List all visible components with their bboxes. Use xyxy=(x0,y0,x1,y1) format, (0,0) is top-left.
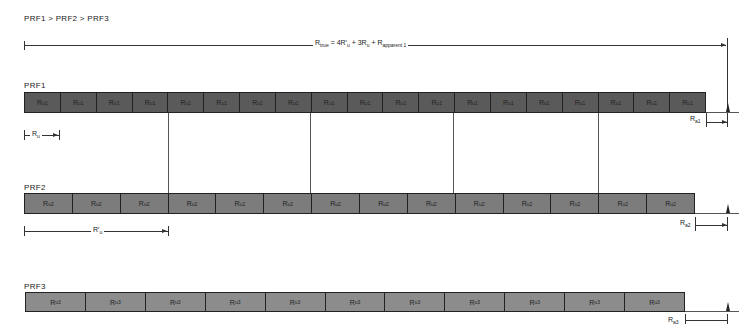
diagram-title: PRF1 > PRF2 > PRF3 xyxy=(24,14,109,23)
cell-subscript: u3 xyxy=(295,299,301,305)
prf1-range-cell: Ru1 xyxy=(240,93,276,112)
prf1-range-cell: Ru1 xyxy=(204,93,240,112)
prf3-baseline xyxy=(685,311,739,312)
cell-subscript: u1 xyxy=(114,100,120,106)
prf1-range-cell: Ru1 xyxy=(97,93,133,112)
prf1-range-cell: Ru1 xyxy=(25,93,61,112)
cell-subscript: u1 xyxy=(42,100,48,106)
cell-subscript: u1 xyxy=(401,100,407,106)
ra1-start-tick xyxy=(706,113,707,127)
cell-subscript: u2 xyxy=(383,201,389,207)
prf1-range-cell: Ru1 xyxy=(312,93,348,112)
prf2-range-cell: Ru2 xyxy=(73,194,121,213)
ra2-start-tick xyxy=(695,217,696,231)
ru-marker-label: Ru xyxy=(30,130,42,139)
cell-subscript: u2 xyxy=(48,201,54,207)
ra2-label: Ra2 xyxy=(680,219,691,228)
prf2-range-bar: Ru2Ru2Ru2Ru2Ru2Ru2Ru2Ru2Ru2Ru2Ru2Ru2Ru2R… xyxy=(24,193,695,214)
prf2-range-cell: Ru2 xyxy=(504,194,552,213)
prf2-range-cell: Ru2 xyxy=(216,194,264,213)
prf2-range-cell: Ru2 xyxy=(169,194,217,213)
alignment-connector-4 xyxy=(598,113,599,193)
cell-subscript: u1 xyxy=(78,100,84,106)
ru-marker-arrowhead xyxy=(53,133,58,137)
cell-subscript: u2 xyxy=(431,201,437,207)
prf3-echo-pulse-icon xyxy=(726,302,730,311)
cell-subscript: u1 xyxy=(616,100,622,106)
cell-subscript: u3 xyxy=(594,299,600,305)
prf3-range-cell: Ru3 xyxy=(26,293,86,311)
cell-subscript: u3 xyxy=(534,299,540,305)
prf2-range-cell: Ru2 xyxy=(121,194,169,213)
prf1-range-cell: Ru1 xyxy=(348,93,384,112)
prf2-range-cell: Ru2 xyxy=(456,194,504,213)
prf2-range-cell: Ru2 xyxy=(408,194,456,213)
prf2-range-cell: Ru2 xyxy=(25,194,73,213)
prf3-range-cell: Ru3 xyxy=(86,293,146,311)
cell-subscript: u1 xyxy=(365,100,371,106)
cell-subscript: u2 xyxy=(527,201,533,207)
cell-subscript: u2 xyxy=(96,201,102,207)
cell-subscript: u3 xyxy=(475,299,481,305)
ru-prime-arrowhead xyxy=(162,229,167,233)
cell-subscript: u2 xyxy=(240,201,246,207)
ra3-line xyxy=(685,320,727,321)
cell-subscript: u3 xyxy=(355,299,361,305)
true-range-arrowhead xyxy=(721,43,726,47)
cell-subscript: u3 xyxy=(415,299,421,305)
prf1-range-cell: Ru1 xyxy=(133,93,169,112)
cell-subscript: u1 xyxy=(436,100,442,106)
true-range-end-line xyxy=(727,38,728,110)
true-range-equation: Rtrue = 4R′u + 3Ru + Rapparent 1 xyxy=(313,39,408,48)
alignment-connector-3 xyxy=(453,113,454,193)
cell-subscript: u1 xyxy=(329,100,335,106)
prf2-baseline xyxy=(695,213,739,214)
prf1-range-cell: Ru1 xyxy=(599,93,635,112)
cell-subscript: u2 xyxy=(622,201,628,207)
prf2-range-cell: Ru2 xyxy=(312,194,360,213)
ru-marker-end-tick xyxy=(59,130,60,140)
cell-subscript: u1 xyxy=(580,100,586,106)
prf1-range-cell: Ru1 xyxy=(491,93,527,112)
ra3-start-tick xyxy=(685,314,686,324)
prf1-range-cell: Ru1 xyxy=(563,93,599,112)
cell-subscript: u1 xyxy=(652,100,658,106)
cell-subscript: u3 xyxy=(115,299,121,305)
ra1-label: Ra1 xyxy=(690,115,701,124)
ra2-end-tick xyxy=(727,217,728,231)
cell-subscript: u1 xyxy=(544,100,550,106)
prf1-range-cell: Ru1 xyxy=(168,93,204,112)
ra3-end-tick xyxy=(727,314,728,324)
prf1-range-cell: Ru1 xyxy=(634,93,670,112)
prf2-range-cell: Ru2 xyxy=(360,194,408,213)
prf3-range-cell: Ru3 xyxy=(206,293,266,311)
prf1-echo-pulse-icon xyxy=(726,103,730,112)
ra3-label: Ra3 xyxy=(668,316,679,325)
prf1-range-cell: Ru1 xyxy=(276,93,312,112)
cell-subscript: u3 xyxy=(654,299,660,305)
prf3-range-cell: Ru3 xyxy=(385,293,445,311)
cell-subscript: u2 xyxy=(575,201,581,207)
prf1-range-cell: Ru1 xyxy=(419,93,455,112)
prf3-range-cell: Ru3 xyxy=(266,293,326,311)
cell-subscript: u2 xyxy=(670,201,676,207)
cell-subscript: u1 xyxy=(186,100,192,106)
prf1-range-cell: Ru1 xyxy=(61,93,97,112)
cell-subscript: u1 xyxy=(257,100,263,106)
cell-subscript: u2 xyxy=(479,201,485,207)
cell-subscript: u1 xyxy=(150,100,156,106)
prf2-range-cell: Ru2 xyxy=(551,194,599,213)
prf3-range-cell: Ru3 xyxy=(146,293,206,311)
ru-prime-end-tick xyxy=(168,226,169,236)
cell-subscript: u2 xyxy=(144,201,150,207)
cell-subscript: u3 xyxy=(175,299,181,305)
prf3-range-cell: Ru3 xyxy=(625,293,684,311)
cell-subscript: u1 xyxy=(472,100,478,106)
cell-subscript: u2 xyxy=(287,201,293,207)
alignment-connector-2 xyxy=(310,113,311,193)
prf3-range-cell: Ru3 xyxy=(445,293,505,311)
prf1-range-cell: Ru1 xyxy=(670,93,705,112)
prf2-range-cell: Ru2 xyxy=(264,194,312,213)
prf1-range-cell: Ru1 xyxy=(455,93,491,112)
prf3-range-cell: Ru3 xyxy=(326,293,386,311)
